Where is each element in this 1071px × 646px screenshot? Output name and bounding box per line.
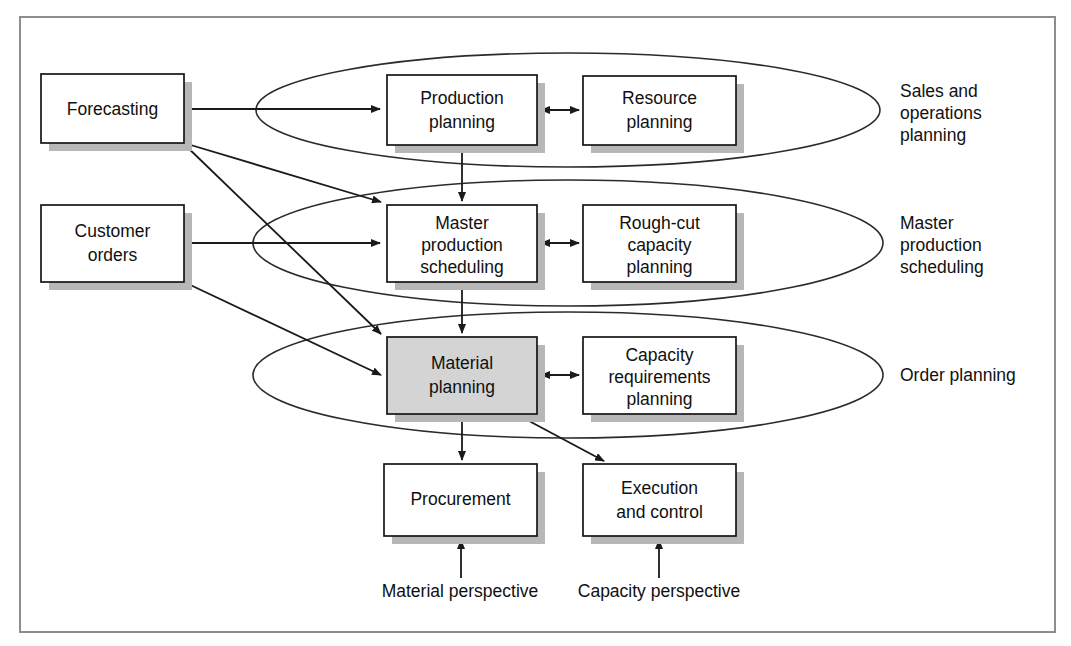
node-label-line: planning <box>626 389 692 409</box>
node-box[interactable] <box>387 337 537 414</box>
node-label-line: Execution <box>621 478 698 498</box>
node-label-line: capacity <box>627 235 691 255</box>
node-rough-cut-capacity-planning[interactable]: Rough-cut capacity planning <box>583 205 744 290</box>
node-label-line: requirements <box>608 367 710 387</box>
node-label-line: Master <box>435 213 489 233</box>
node-box[interactable] <box>583 76 736 145</box>
node-label-line: Capacity <box>625 345 693 365</box>
group-label-line: Order planning <box>900 365 1016 385</box>
group-label-line: Sales and <box>900 81 978 101</box>
node-material-planning[interactable]: Material planning <box>387 337 545 422</box>
node-production-planning[interactable]: Production planning <box>387 75 545 153</box>
group-label-line: operations <box>900 103 982 123</box>
node-procurement[interactable]: Procurement <box>384 464 545 544</box>
node-label-line: and control <box>616 502 703 522</box>
diagram-canvas: Forecasting Customer orders Production p… <box>0 0 1071 646</box>
node-label-line: Customer <box>75 221 151 241</box>
node-capacity-requirements-planning[interactable]: Capacity requirements planning <box>583 337 744 422</box>
node-label-line: scheduling <box>420 257 504 277</box>
node-label-line: Procurement <box>410 489 510 509</box>
node-label-line: Production <box>420 88 504 108</box>
node-customer-orders[interactable]: Customer orders <box>41 205 192 290</box>
node-label-line: Forecasting <box>67 99 158 119</box>
group-label-sales-and-operations-planning: Sales and operations planning <box>900 81 982 145</box>
diagram-root: Forecasting Customer orders Production p… <box>0 0 1071 646</box>
node-master-production-scheduling[interactable]: Master production scheduling <box>387 205 545 290</box>
node-forecasting[interactable]: Forecasting <box>41 74 192 151</box>
node-label-line: planning <box>626 257 692 277</box>
group-label-line: scheduling <box>900 257 984 277</box>
node-label-line: Material <box>431 353 493 373</box>
node-resource-planning[interactable]: Resource planning <box>583 76 744 153</box>
group-label-master-production-scheduling: Master production scheduling <box>900 213 984 277</box>
node-box[interactable] <box>387 75 537 145</box>
node-label-line: Rough-cut <box>619 213 700 233</box>
node-label-line: Resource <box>622 88 697 108</box>
node-label-line: orders <box>88 245 138 265</box>
group-label-line: Master <box>900 213 954 233</box>
group-label-line: planning <box>900 125 966 145</box>
node-label-line: planning <box>626 112 692 132</box>
node-label-line: planning <box>429 112 495 132</box>
node-execution-and-control[interactable]: Execution and control <box>583 464 744 544</box>
node-label-line: production <box>421 235 503 255</box>
node-box[interactable] <box>41 205 184 282</box>
group-label-line: production <box>900 235 982 255</box>
label-capacity-perspective: Capacity perspective <box>578 581 740 601</box>
group-label-order-planning: Order planning <box>900 365 1016 385</box>
node-box[interactable] <box>583 464 736 536</box>
label-material-perspective: Material perspective <box>382 581 539 601</box>
node-label-line: planning <box>429 377 495 397</box>
